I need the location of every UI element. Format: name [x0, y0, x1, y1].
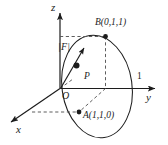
point-b-label: B(0,1,1): [95, 18, 126, 28]
z-axis-label: z: [51, 2, 55, 13]
origin-label: O: [62, 91, 69, 101]
point-p-dot: [74, 63, 80, 69]
x-axis-label: x: [16, 124, 21, 135]
point-a-dot: [77, 110, 82, 115]
point-b-dot: [103, 34, 108, 39]
y-axis-tick-1-label: 1: [137, 72, 142, 82]
vector-f-shaft: [61, 48, 85, 89]
axis-lines: [11, 13, 155, 122]
point-a-label: A(1,1,0): [83, 111, 114, 121]
y-axis-label: y: [146, 92, 151, 103]
point-p-label: P: [84, 72, 90, 82]
force-vector: [61, 48, 85, 89]
plotted-points: [74, 34, 108, 114]
dash-yfoot-to-a: [79, 89, 106, 113]
x-axis: [11, 89, 60, 123]
force-magnitude-label: |F|: [58, 42, 70, 52]
coordinate-geometry-figure: z y x O 1 B(0,1,1) A(1,1,0) P |F|: [0, 0, 168, 145]
